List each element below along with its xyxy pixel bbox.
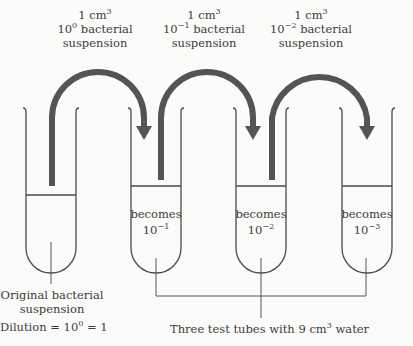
arrow-1 (52, 72, 144, 186)
arrow-2 (161, 72, 253, 180)
original-line2: suspension (0, 302, 104, 316)
volume-text: 1 cm (294, 8, 322, 22)
transfer-label-3: 1 cm3 10−2 bacterial suspension (246, 8, 376, 50)
becomes-text: becomes (234, 206, 288, 222)
dilution-prefix: Dilution = 10 (0, 320, 78, 334)
tube-1 (128, 108, 184, 273)
transfer-arrows (52, 72, 367, 186)
water-prefix: Three test tubes with 9 cm (170, 322, 327, 336)
conc-base: 10 (270, 22, 285, 36)
becomes-text: becomes (129, 206, 183, 222)
conc-text: bacterial (300, 22, 352, 36)
suspension-text: suspension (246, 36, 376, 50)
conc-exp: −3 (368, 222, 380, 231)
conc-exp: −2 (285, 21, 297, 30)
water-suffix: water (332, 322, 369, 336)
tube-3-label: becomes 10−3 (340, 206, 394, 238)
conc-base: 10 (248, 223, 263, 237)
dilution-suffix: = 1 (83, 320, 107, 334)
test-tubes (23, 108, 395, 273)
conc-base: 10 (143, 223, 158, 237)
volume-text: 1 cm (78, 8, 106, 22)
conc-base: 10 (163, 22, 178, 36)
arrowhead-1 (136, 126, 152, 140)
dilution-text: Dilution = 100 = 1 (0, 320, 104, 334)
conc-base: 10 (354, 223, 369, 237)
tube-2 (233, 108, 289, 273)
volume-exp: 3 (323, 7, 328, 16)
arrow-heads (136, 126, 375, 140)
conc-exp: −1 (178, 21, 190, 30)
becomes-text: becomes (340, 206, 394, 222)
conc-base: 10 (57, 22, 72, 36)
volume-text: 1 cm (187, 8, 215, 22)
arrowhead-2 (245, 126, 261, 140)
conc-exp: −2 (262, 222, 274, 231)
original-label: Original bacterial suspension Dilution =… (0, 288, 104, 334)
conc-exp: −1 (157, 222, 169, 231)
volume-exp: 3 (107, 7, 112, 16)
conc-text: bacterial (193, 22, 245, 36)
arrowhead-3 (359, 126, 375, 140)
original-line1: Original bacterial (0, 288, 104, 302)
volume-exp: 3 (216, 7, 221, 16)
tube-1-label: becomes 10−1 (129, 206, 183, 238)
dilution-exp: 0 (78, 319, 83, 328)
tube-2-label: becomes 10−2 (234, 206, 288, 238)
water-note: Three test tubes with 9 cm3 water (170, 322, 350, 336)
water-exp: 3 (327, 321, 332, 330)
conc-exp: 0 (72, 21, 77, 30)
conc-text: bacterial (81, 22, 133, 36)
